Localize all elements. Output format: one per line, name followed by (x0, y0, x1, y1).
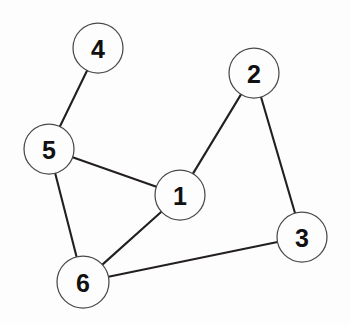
graph-edge-2-3 (261, 97, 295, 213)
graph-node-5[interactable]: 5 (24, 124, 74, 174)
graph-edge-5-1 (73, 157, 157, 186)
graph-node-label-4: 4 (91, 35, 105, 63)
graph-edge-1-2 (193, 94, 241, 173)
graph-node-label-3: 3 (295, 224, 309, 252)
graph-edge-1-6 (102, 212, 161, 265)
graph-node-label-2: 2 (247, 60, 261, 88)
graph-edge-5-6 (55, 173, 76, 257)
graph-node-label-5: 5 (42, 136, 56, 164)
graph-node-3[interactable]: 3 (277, 212, 327, 262)
graph-diagram: 123456 (0, 0, 350, 324)
graph-edge-4-5 (60, 70, 87, 126)
graph-node-label-6: 6 (76, 269, 90, 297)
graph-node-label-1: 1 (173, 182, 187, 210)
graph-edge-6-3 (108, 242, 277, 277)
graph-node-1[interactable]: 1 (155, 170, 205, 220)
graph-node-4[interactable]: 4 (73, 23, 123, 73)
graph-node-2[interactable]: 2 (229, 48, 279, 98)
graph-diagram-canvas: 123456 (0, 0, 350, 324)
graph-node-6[interactable]: 6 (57, 256, 109, 308)
